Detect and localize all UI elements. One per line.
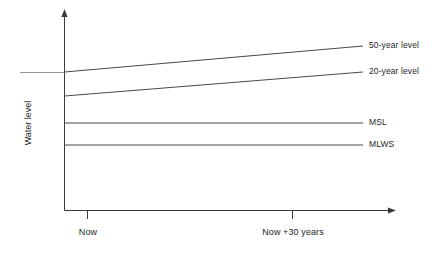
x-tick-label-now: Now [79, 228, 97, 237]
x-axis-arrow-icon [388, 207, 396, 213]
series-line-20-year [65, 72, 364, 96]
x-axis [65, 207, 397, 219]
series-label-msl: MSL [369, 118, 387, 127]
series-label-mlws: MLWS [369, 140, 394, 149]
y-axis-arrow-icon [61, 9, 67, 17]
water-level-chart: Water level Now Now +30 years 50-year le… [0, 0, 441, 253]
y-axis-label: Water level [23, 83, 33, 163]
y-axis [61, 9, 67, 211]
series-label-20-year: 20-year level [369, 67, 419, 76]
series-label-50-year: 50-year level [369, 41, 419, 50]
x-tick-label-future: Now +30 years [262, 228, 324, 237]
series-line-50-year [65, 46, 364, 72]
